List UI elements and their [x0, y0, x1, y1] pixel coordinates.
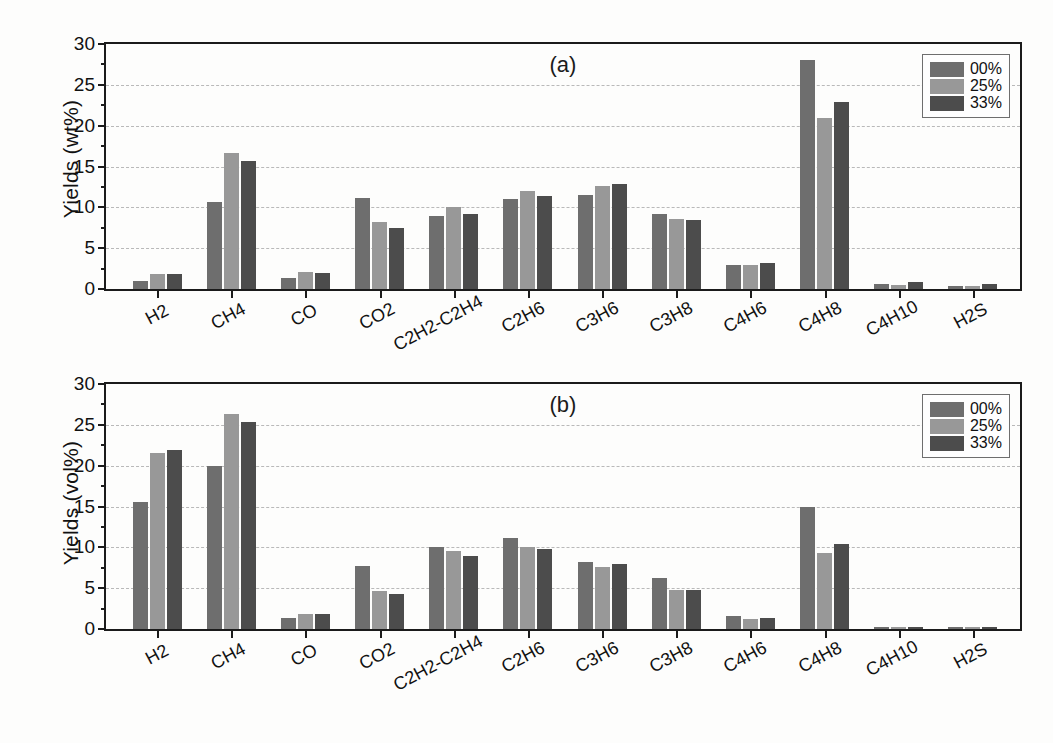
bar: [429, 547, 444, 629]
bar: [133, 502, 148, 629]
bar-group: H2: [120, 44, 194, 289]
bar: [595, 186, 610, 289]
x-tick-label: CH4: [208, 639, 250, 674]
legend-label: 00%: [970, 61, 1002, 77]
bar: [834, 544, 849, 629]
bar: [686, 590, 701, 629]
bar: [133, 281, 148, 289]
bar: [595, 567, 610, 629]
x-tick-label: C2H6: [498, 297, 549, 337]
bar: [520, 191, 535, 289]
bar: [389, 228, 404, 289]
bar: [463, 556, 478, 630]
legend-swatch: [930, 96, 964, 111]
bar-group: CH4: [194, 44, 268, 289]
x-tick-mark: [454, 629, 456, 638]
bar: [315, 614, 330, 629]
legend-row: 25%: [930, 78, 1002, 94]
bar-group: CO: [268, 44, 342, 289]
bar: [612, 184, 627, 289]
bar: [446, 551, 461, 629]
y-tick-mark: [98, 206, 106, 208]
bar: [652, 214, 667, 289]
bar: [908, 627, 923, 629]
x-tick-mark: [528, 629, 530, 638]
bar-group: CO2: [343, 384, 417, 629]
y-tick-mark: [98, 424, 106, 426]
bar: [578, 562, 593, 629]
legend-swatch: [930, 419, 964, 434]
bar: [982, 284, 997, 289]
legend-a: 00%25%33%: [922, 54, 1010, 118]
figure-root: Yields (wt%) (a) 051015202530 H2CH4COCO2…: [0, 0, 1053, 743]
x-tick-mark: [825, 289, 827, 298]
bar: [948, 286, 963, 289]
bar: [669, 590, 684, 629]
y-tick-mark: [98, 383, 106, 385]
bar-group-container-b: H2CH4COCO2C2H2-C2H4C2H6C3H6C3H8C4H6C4H8C…: [106, 384, 1020, 629]
bar: [372, 222, 387, 289]
x-tick-mark: [973, 289, 975, 298]
bar: [207, 202, 222, 289]
x-tick-mark: [973, 629, 975, 638]
x-tick-mark: [899, 629, 901, 638]
y-tick-mark: [98, 506, 106, 508]
x-tick-mark: [528, 289, 530, 298]
bar-group: C4H6: [713, 384, 787, 629]
x-tick-mark: [157, 289, 159, 298]
y-axis-label-wrap-b: Yields (vol%): [8, 378, 68, 628]
bar: [743, 265, 758, 289]
bar: [874, 627, 889, 629]
y-tick-mark: [98, 166, 106, 168]
x-tick-label: H2S: [950, 299, 991, 334]
bar: [224, 414, 239, 629]
bar-group: C2H2-C2H4: [417, 44, 491, 289]
bar: [834, 102, 849, 289]
legend-label: 33%: [970, 435, 1002, 451]
bar: [429, 216, 444, 289]
bar: [817, 118, 832, 290]
bar: [520, 547, 535, 629]
bar: [167, 274, 182, 289]
y-axis-label-wrap-a: Yields (wt%): [8, 34, 68, 284]
x-tick-label: C4H10: [862, 296, 921, 341]
bar-group-container-a: H2CH4COCO2C2H2-C2H4C2H6C3H6C3H8C4H6C4H8C…: [106, 44, 1020, 289]
bar-group: C2H6: [491, 384, 565, 629]
bar: [537, 196, 552, 289]
x-tick-label: C4H8: [795, 297, 846, 337]
chart-panel-a: Yields (wt%) (a) 051015202530 H2CH4COCO2…: [0, 0, 1053, 372]
legend-label: 25%: [970, 78, 1002, 94]
plot-area-b: (b) 051015202530 H2CH4COCO2C2H2-C2H4C2H6…: [104, 382, 1022, 631]
x-tick-label: C3H8: [646, 297, 697, 337]
bar: [503, 538, 518, 629]
x-tick-label: H2: [142, 300, 172, 329]
x-tick-mark: [305, 629, 307, 638]
bar: [800, 60, 815, 289]
x-tick-mark: [305, 289, 307, 298]
bar: [281, 278, 296, 289]
legend-label: 33%: [970, 95, 1002, 111]
legend-swatch: [930, 79, 964, 94]
x-tick-mark: [676, 289, 678, 298]
x-tick-mark: [750, 629, 752, 638]
bar: [726, 265, 741, 290]
bar: [982, 627, 997, 629]
bar: [355, 198, 370, 289]
legend-swatch: [930, 436, 964, 451]
x-tick-mark: [602, 289, 604, 298]
legend-row: 33%: [930, 95, 1002, 111]
bar: [355, 566, 370, 629]
x-tick-mark: [231, 289, 233, 298]
bar-group: C3H8: [639, 384, 713, 629]
x-tick-mark: [380, 629, 382, 638]
bar: [760, 263, 775, 289]
plot-area-a: (a) 051015202530 H2CH4COCO2C2H2-C2H4C2H6…: [104, 42, 1022, 291]
bar: [669, 219, 684, 289]
legend-label: 25%: [970, 418, 1002, 434]
y-tick-mark: [98, 546, 106, 548]
x-tick-mark: [231, 629, 233, 638]
bar: [726, 616, 741, 629]
legend-row: 00%: [930, 401, 1002, 417]
x-tick-label: CO: [288, 640, 322, 671]
x-tick-label: C4H6: [720, 297, 771, 337]
